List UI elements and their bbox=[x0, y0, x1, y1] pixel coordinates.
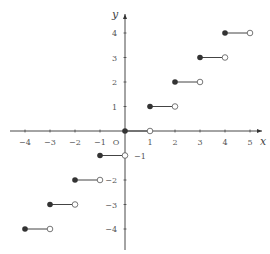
x-tick-label: −4 bbox=[19, 138, 31, 147]
y-tick-label: 4 bbox=[112, 29, 117, 38]
y-tick-label: 3 bbox=[112, 54, 117, 63]
closed-dot-icon bbox=[172, 79, 178, 85]
y-tick-label: −3 bbox=[105, 201, 117, 210]
open-dot-icon bbox=[72, 202, 78, 208]
origin-label: O bbox=[113, 138, 120, 147]
x-tick-label: 4 bbox=[222, 138, 227, 147]
y-tick-label: −1 bbox=[134, 152, 146, 161]
closed-dot-icon bbox=[122, 128, 128, 134]
open-dot-icon bbox=[147, 128, 153, 134]
y-tick-label: −2 bbox=[105, 176, 117, 185]
closed-dot-icon bbox=[22, 226, 28, 232]
open-dot-icon bbox=[47, 226, 53, 232]
y-tick-label: 1 bbox=[112, 103, 117, 112]
x-tick-label: 1 bbox=[147, 138, 152, 147]
open-dot-icon bbox=[247, 30, 253, 36]
closed-dot-icon bbox=[197, 55, 203, 61]
open-dot-icon bbox=[172, 104, 178, 110]
x-tick-label: −2 bbox=[69, 138, 81, 147]
closed-dot-icon bbox=[222, 30, 228, 36]
closed-dot-icon bbox=[147, 104, 153, 110]
open-dot-icon bbox=[97, 177, 103, 183]
x-axis-label: x bbox=[260, 135, 267, 148]
axes bbox=[10, 14, 262, 250]
y-tick-label: −4 bbox=[105, 225, 117, 234]
axis-labels: Oxy bbox=[111, 8, 267, 148]
x-tick-label: 5 bbox=[247, 138, 252, 147]
x-tick-label: 2 bbox=[172, 138, 177, 147]
x-axis-arrow-icon bbox=[257, 129, 262, 133]
x-tick-label: −1 bbox=[94, 138, 106, 147]
y-axis-label: y bbox=[111, 8, 119, 21]
x-tick-label: −3 bbox=[44, 138, 56, 147]
open-dot-icon bbox=[197, 79, 203, 85]
closed-dot-icon bbox=[47, 202, 53, 208]
y-tick-label: 2 bbox=[112, 78, 117, 87]
open-dot-icon bbox=[122, 153, 128, 159]
y-axis-arrow-icon bbox=[123, 14, 127, 19]
closed-dot-icon bbox=[72, 177, 78, 183]
closed-dot-icon bbox=[97, 153, 103, 159]
step-function-plot: −4−3−2−112345−4−3−2−11234 Oxy bbox=[0, 0, 270, 254]
x-tick-label: 3 bbox=[197, 138, 202, 147]
open-dot-icon bbox=[222, 55, 228, 61]
